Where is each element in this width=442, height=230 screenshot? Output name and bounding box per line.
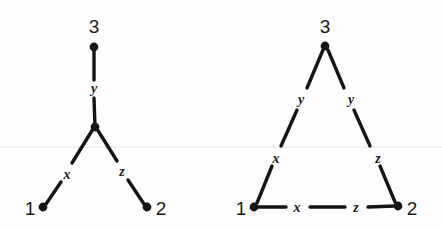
node-dot-3 [90,43,99,52]
edge-label-y: y [89,81,98,96]
edge-label-z: z [118,164,125,179]
edge-segment [368,206,395,207]
edge-y-right-side: y [328,50,370,146]
edge-x-left-lower: x [257,151,280,203]
edge-segment [72,129,93,163]
edge-segment [257,166,272,203]
edge-label-y-left: y [296,92,305,107]
triangle-diagram: y y x z x z [236,16,418,219]
node-label-3: 3 [89,16,100,37]
node-dot-3 [321,42,330,51]
edge-segment [46,182,61,204]
edge-label-x-bottom: x [293,200,301,215]
node-label-1: 1 [25,198,36,219]
edge-label-z-bottom: z [352,200,359,215]
edge-z-right-lower: z [374,151,395,202]
edge-z-bottom: z [310,200,395,215]
node-dot-2 [394,202,403,211]
edge-label-z-right: z [374,151,381,166]
node-dot-1 [39,203,48,212]
node-dot-2 [143,203,152,212]
edge-segment [307,50,323,88]
edge-segment [380,166,395,202]
diagram-canvas: y x z 3 1 2 y [0,0,442,230]
edge-y-left-diagram: y [89,51,98,127]
node-label-2: 2 [156,198,167,219]
edge-segment [281,110,297,146]
node-label-2: 2 [407,198,418,219]
edge-segment [128,180,144,204]
edge-y-left-side: y [281,50,323,146]
edge-label-y-right: y [346,92,355,107]
edge-segment [97,129,117,161]
edge-segment [328,50,344,88]
edge-x-left-diagram: x [46,129,93,204]
edge-segment [354,110,370,146]
edge-label-x: x [63,167,71,182]
figure-container: y x z 3 1 2 y [0,0,442,230]
node-label-3: 3 [320,16,331,37]
edge-z-left-diagram: z [97,129,144,204]
star-tree-diagram: y x z 3 1 2 [25,16,167,219]
node-label-1: 1 [236,198,247,219]
edge-label-x-left: x [272,151,280,166]
edge-x-bottom: x [258,200,301,215]
node-dot-1 [250,203,259,212]
node-dot-center [91,123,100,132]
